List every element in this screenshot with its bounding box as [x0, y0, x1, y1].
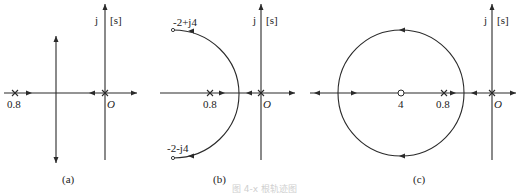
- arrow-left-icon: [314, 91, 320, 96]
- panel-label: (b): [213, 173, 226, 186]
- endpoint-dot: [171, 28, 174, 31]
- arrow-right-icon: [450, 91, 456, 96]
- locus-arc: [173, 30, 239, 158]
- arrow-up-icon: [103, 4, 108, 10]
- panel-b: -2+j4 -2-j4 0.8 O j [s] (b): [160, 4, 295, 186]
- arrow-right-icon: [219, 91, 225, 96]
- s-plane-label: [s]: [266, 14, 278, 26]
- origin-label: O: [107, 98, 115, 110]
- origin-label: O: [494, 98, 502, 110]
- arrow-left-icon: [188, 154, 194, 159]
- arrow-left-icon: [89, 91, 95, 96]
- arrow-right-icon: [510, 91, 516, 96]
- panel-label: (a): [62, 173, 75, 186]
- complex-pole-label: -2-j4: [167, 142, 189, 154]
- arrow-up-icon: [490, 4, 495, 10]
- panel-a: 0.8 O j [s] (a): [4, 4, 137, 186]
- figure-caption: 图 4-x 根轨迹图: [232, 183, 297, 194]
- arrow-left-icon: [399, 154, 405, 159]
- origin-label: O: [263, 98, 271, 110]
- j-axis-label: j: [252, 14, 256, 26]
- s-plane-label: [s]: [110, 14, 122, 26]
- s-plane-label: [s]: [497, 14, 509, 26]
- arrow-down-icon: [54, 157, 59, 163]
- arrow-right-icon: [351, 91, 357, 96]
- root-locus-figure: 0.8 O j [s] (a) -2+j4 -2-j4 0.8 O j [s] …: [0, 0, 523, 195]
- arrow-left-icon: [399, 28, 405, 33]
- pole-label: 0.8: [436, 98, 450, 110]
- j-axis-label: j: [94, 14, 98, 26]
- arrow-up-icon: [54, 36, 59, 42]
- arrow-left-icon: [246, 91, 252, 96]
- arrow-right-icon: [131, 91, 137, 96]
- arrow-left-icon: [471, 91, 477, 96]
- arrow-right-icon: [289, 91, 295, 96]
- arrow-up-icon: [259, 4, 264, 10]
- panel-c: 4 0.8 O j [s] (c): [310, 4, 516, 186]
- j-axis-label: j: [483, 14, 487, 26]
- pole-label: 0.8: [203, 98, 217, 110]
- zero-o-icon: [398, 90, 404, 96]
- zero-label: 4: [398, 98, 404, 110]
- panel-label: (c): [413, 173, 426, 186]
- pole-label: 0.8: [7, 98, 21, 110]
- endpoint-dot: [171, 156, 174, 159]
- arrow-right-icon: [26, 91, 32, 96]
- complex-pole-label: -2+j4: [173, 16, 197, 28]
